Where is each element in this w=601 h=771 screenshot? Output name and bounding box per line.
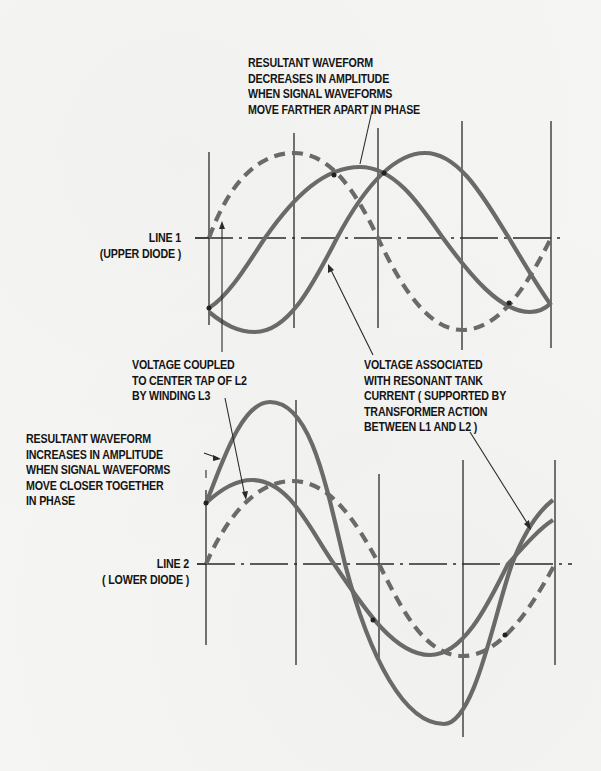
annotation-line: BY WINDING L3 <box>132 388 247 404</box>
annotation-line: WHEN SIGNAL WAVEFORMS <box>248 86 420 102</box>
arrowhead-icon <box>328 264 334 273</box>
line1-title: LINE 1 <box>100 230 181 246</box>
line2-subtitle: ( LOWER DIODE ) <box>102 572 189 588</box>
intersection-dot <box>503 633 508 638</box>
annotation-line: BETWEEN L1 AND L2 ) <box>364 419 506 435</box>
annotation-line: WITH RESONANT TANK <box>364 373 506 389</box>
annotation-line: IN PHASE <box>26 493 170 509</box>
annotation-line: RESULTANT WAVEFORM <box>248 55 420 71</box>
intersection-dot <box>371 618 376 623</box>
annotation-increases: RESULTANT WAVEFORM INCREASES IN AMPLITUD… <box>26 431 170 509</box>
line1-label: LINE 1 (UPPER DIODE ) <box>100 230 181 261</box>
arrowhead-icon <box>213 455 221 461</box>
annotation-decreases: RESULTANT WAVEFORM DECREASES IN AMPLITUD… <box>248 55 420 117</box>
annotation-line: MOVE CLOSER TOGETHER <box>26 478 170 494</box>
intersection-dot <box>507 301 512 306</box>
annotation-line: CURRENT ( SUPPORTED BY <box>364 388 506 404</box>
annotation-line: VOLTAGE COUPLED <box>132 357 247 373</box>
annotation-tank: VOLTAGE ASSOCIATED WITH RESONANT TANK CU… <box>364 357 506 435</box>
intersection-dot <box>382 171 387 176</box>
annotation-coupled: VOLTAGE COUPLED TO CENTER TAP OF L2 BY W… <box>132 357 247 404</box>
intersection-dot <box>332 173 337 178</box>
leader-tank-upper <box>330 268 373 355</box>
annotation-line: TRANSFORMER ACTION <box>364 404 506 420</box>
leader-decreases <box>360 111 372 164</box>
intersection-dot <box>207 306 212 311</box>
annotation-line: RESULTANT WAVEFORM <box>26 431 170 447</box>
leader-tank-lower <box>470 432 529 526</box>
annotation-line: DECREASES IN AMPLITUDE <box>248 71 420 87</box>
leader-lines <box>195 111 531 564</box>
annotation-line: TO CENTER TAP OF L2 <box>132 373 247 389</box>
annotation-line: MOVE FARTHER APART IN PHASE <box>248 102 420 118</box>
annotation-line: WHEN SIGNAL WAVEFORMS <box>26 462 170 478</box>
line2-label: LINE 2 ( LOWER DIODE ) <box>102 556 189 587</box>
line2-title: LINE 2 <box>102 556 189 572</box>
annotation-line: VOLTAGE ASSOCIATED <box>364 357 506 373</box>
arrowhead-icon <box>219 221 225 229</box>
line1-subtitle: (UPPER DIODE ) <box>100 246 181 262</box>
diagram-page: RESULTANT WAVEFORM DECREASES IN AMPLITUD… <box>0 0 601 771</box>
intersection-dot <box>204 501 209 506</box>
upper-graph <box>195 121 560 350</box>
annotation-line: INCREASES IN AMPLITUDE <box>26 447 170 463</box>
lower-graph <box>197 400 572 737</box>
